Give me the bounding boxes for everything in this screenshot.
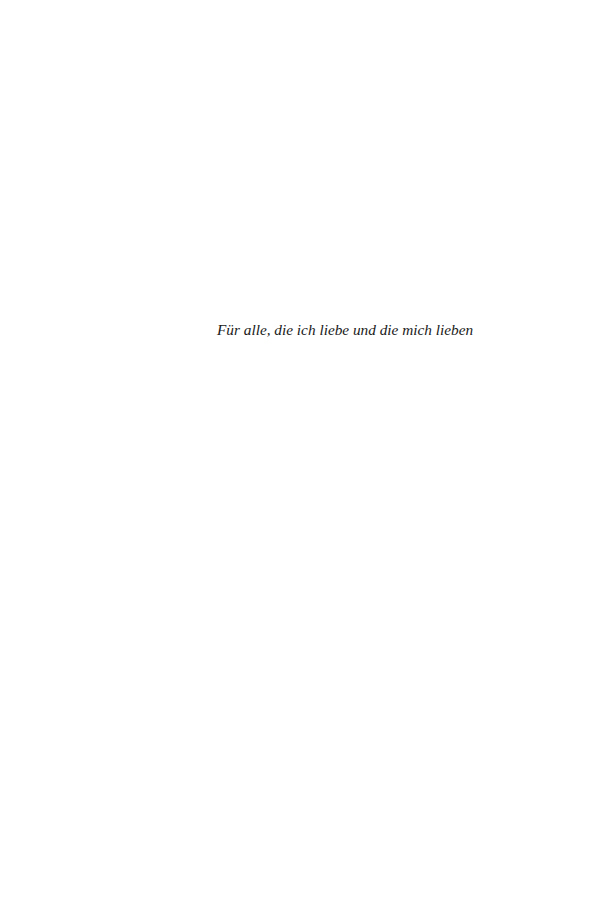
dedication-text: Für alle, die ich liebe und die mich lie… [217,320,473,340]
book-page: Für alle, die ich liebe und die mich lie… [0,0,593,902]
